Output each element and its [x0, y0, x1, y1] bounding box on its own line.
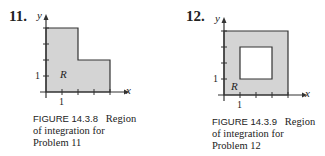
tick-label-x-12: 1 [237, 99, 242, 110]
y-arrow-icon [44, 14, 49, 20]
figure-caption-11: FIGURE 14.3.8 Region of integration for … [33, 113, 136, 149]
region-label-12: R [231, 80, 238, 92]
y-axis-label-12: y [215, 12, 220, 24]
figure-caption-12: FIGURE 14.3.9 Region of integration for … [212, 116, 315, 152]
region-label-11: R [60, 68, 67, 80]
problem-number-12: 12. [186, 8, 205, 25]
figure-11 [40, 14, 129, 98]
figure-label-12: FIGURE 14.3.9 [212, 116, 277, 127]
x-axis-label-11: x [126, 84, 131, 96]
y-arrow-icon [222, 17, 227, 23]
tick-label-y-11: 1 [35, 70, 40, 81]
figure-label-11: FIGURE 14.3.8 [33, 113, 98, 124]
region-r-11 [46, 28, 110, 92]
tick-label-y-12: 1 [213, 73, 218, 84]
tick-label-x-11: 1 [59, 96, 64, 107]
y-axis-label-11: y [37, 9, 42, 21]
x-axis-label-12: x [305, 87, 310, 99]
